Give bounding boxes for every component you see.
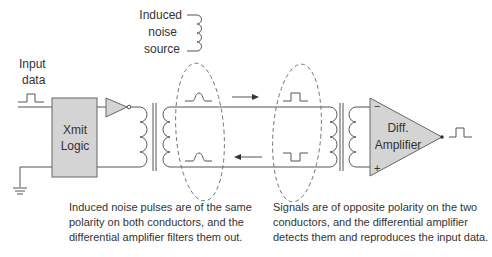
receive-transformer — [330, 103, 356, 171]
caption-line: Induced noise pulses are of the same — [69, 200, 252, 215]
buffer-inversion-bubble — [127, 105, 131, 109]
caption-line: conductors, and the differential amplifi… — [273, 215, 488, 230]
amp-output-node — [440, 135, 444, 139]
noise-pulses-ellipse — [171, 61, 229, 202]
input-data-label-line2: data — [22, 73, 46, 87]
caption-line: polarity on both conductors, and the — [69, 215, 252, 230]
caption-line: differential amplifier filters them out. — [69, 230, 252, 245]
caption-line: detects them and reproduces the input da… — [273, 230, 488, 245]
return-arrow-icon — [234, 154, 262, 160]
amp-minus-sign: − — [374, 100, 380, 112]
xmit-logic-label-line2: Logic — [61, 139, 90, 153]
transmit-transformer — [140, 103, 170, 171]
diff-amplifier-label-line2: Amplifier — [375, 138, 422, 152]
forward-arrow-icon — [232, 94, 259, 100]
diff-amplifier-label-line1: Diff. — [387, 121, 408, 135]
noise-pulse-bottom-icon — [185, 153, 212, 161]
noise-source-label-line2: noise — [148, 25, 177, 39]
xmit-logic-box — [52, 98, 97, 177]
caption-noise-filtering: Induced noise pulses are of the same pol… — [69, 200, 252, 245]
signal-pulses-ellipse — [268, 62, 326, 203]
noise-source-coil-icon — [187, 15, 202, 51]
input-pulse-icon — [18, 94, 44, 102]
caption-line: Signals are of opposite polarity on the … — [273, 200, 488, 215]
diff-amplifier-triangle — [370, 98, 442, 176]
noise-pulse-top-icon — [185, 93, 212, 101]
ground-icon — [13, 188, 27, 194]
signal-pulse-top-icon — [283, 93, 308, 101]
amp-plus-sign: + — [374, 162, 380, 174]
noise-source-label-line1: Induced — [139, 8, 182, 22]
output-pulse-icon — [449, 128, 472, 137]
buffer-triangle — [106, 98, 127, 117]
ground-wire — [20, 167, 52, 187]
signal-pulse-bottom-icon — [283, 153, 308, 161]
caption-signal-detection: Signals are of opposite polarity on the … — [273, 200, 488, 245]
input-data-label-line1: Input — [19, 57, 46, 71]
noise-source-label-line3: source — [144, 42, 180, 56]
xmit-logic-label-line1: Xmit — [63, 123, 88, 137]
